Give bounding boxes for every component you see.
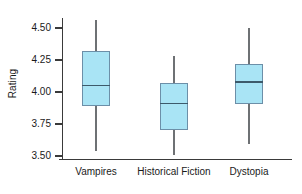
y-axis-tick-label: 3.50 [15, 150, 51, 162]
iqr-box [82, 51, 110, 106]
iqr-box [235, 64, 263, 104]
y-axis-tick-label-text: 4.25 [19, 54, 51, 65]
median-line [160, 103, 188, 105]
whisker-upper [173, 56, 175, 83]
y-axis-tick-label: 3.75 [15, 118, 51, 130]
y-axis-tick-label: 4.50 [15, 22, 51, 34]
y-axis-tick [55, 155, 63, 156]
x-axis-category-label: Dystopia [189, 166, 302, 177]
y-axis-tick-label-text: 4.00 [19, 86, 51, 97]
whisker-lower [173, 130, 175, 154]
y-axis-tick [55, 59, 63, 60]
y-axis-tick [55, 27, 63, 28]
y-axis-tick [55, 91, 63, 92]
y-axis-tick-label-text: 3.75 [19, 118, 51, 129]
median-line [235, 81, 263, 83]
iqr-box [160, 83, 188, 130]
x-axis-line [59, 159, 292, 160]
boxplot-chart: Rating 3.503.754.004.254.50 VampiresHist… [0, 0, 302, 194]
median-line [82, 85, 110, 87]
whisker-lower [95, 106, 97, 151]
y-axis-tick-label: 4.25 [15, 54, 51, 66]
y-axis-tick-label: 4.00 [15, 86, 51, 98]
y-axis-tick-label-text: 3.50 [19, 150, 51, 161]
y-axis-tick-label-text: 4.50 [19, 22, 51, 33]
y-axis-tick [55, 123, 63, 124]
whisker-upper [95, 20, 97, 51]
y-axis-line [62, 18, 63, 160]
whisker-lower [248, 104, 250, 145]
whisker-upper [248, 28, 250, 64]
